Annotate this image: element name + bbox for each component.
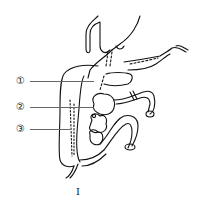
leader-line-1 (30, 81, 94, 82)
anatomy-figure: ① ② ③ I (0, 0, 201, 206)
anatomy-line-drawing (0, 0, 201, 206)
label-1: ① (16, 76, 25, 86)
figure-caption: I (76, 186, 80, 197)
label-3: ③ (16, 124, 25, 134)
leader-line-3 (30, 129, 70, 130)
leader-line-2 (30, 107, 94, 108)
label-2: ② (16, 102, 25, 112)
